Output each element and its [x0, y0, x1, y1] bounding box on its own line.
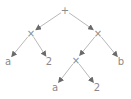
- edge-root-mul_right: [69, 13, 93, 30]
- node-mul_right: ×: [94, 28, 102, 39]
- node-a1: a: [5, 56, 11, 67]
- edge-mul_mid-two2: [79, 64, 93, 82]
- expression-tree: +××a2×ba2: [0, 0, 131, 99]
- edge-root-mul_left: [36, 13, 61, 30]
- edge-mul_left-two1: [34, 37, 46, 56]
- tree-nodes: +××a2×ba2: [5, 5, 124, 93]
- tree-edges: [12, 13, 117, 83]
- node-two2: 2: [94, 82, 100, 93]
- edge-mul_right-b: [101, 37, 117, 57]
- node-mul_left: ×: [27, 28, 35, 39]
- edge-mul_left-a1: [12, 37, 28, 57]
- node-root: +: [61, 5, 69, 16]
- edge-mul_right-mul_mid: [80, 37, 95, 55]
- node-two1: 2: [46, 56, 52, 67]
- node-mul_mid: ×: [72, 55, 80, 66]
- node-b: b: [118, 56, 124, 67]
- node-a2: a: [52, 82, 58, 93]
- edge-mul_mid-a2: [59, 64, 73, 82]
